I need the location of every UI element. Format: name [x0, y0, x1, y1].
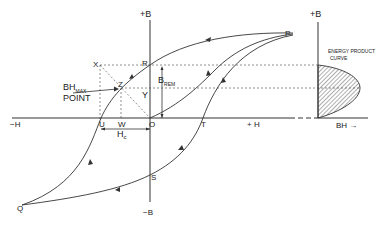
minus-b-label: −B: [143, 208, 153, 217]
b-rem-label: BREM: [158, 75, 175, 87]
point-w-label: W: [118, 120, 126, 129]
point-r-label: R: [142, 59, 148, 68]
point-x-label: X: [93, 60, 99, 69]
energy-plus-b-label: +B: [310, 9, 321, 19]
arrow-icon: [221, 77, 226, 83]
energy-curve-title-line2: CURVE: [330, 55, 348, 61]
point-o-label: O: [149, 120, 155, 129]
arrow-icon: [161, 114, 164, 118]
point-z-label: Z: [118, 80, 123, 89]
point-u-label: U: [99, 120, 105, 129]
arrow-icon: [206, 70, 211, 76]
point-t-label: T: [201, 120, 206, 129]
hysteresis-diagram: +B −B −H + H +B BH → O P Q R S T U W X Y…: [0, 0, 390, 229]
point-s-label: S: [151, 173, 156, 182]
initial-magnetization-curve: [150, 34, 293, 118]
plus-h-label: + H: [247, 120, 260, 129]
point-y-label: Y: [142, 90, 148, 100]
hc-label: Hc: [117, 129, 127, 140]
point-q-label: Q: [17, 204, 23, 213]
bh-max-point-label: POINT: [63, 93, 91, 103]
plus-b-label: +B: [140, 9, 151, 19]
point-p-label: P: [285, 29, 290, 38]
arrow-icon: [161, 66, 164, 70]
arrow-icon: [178, 145, 184, 150]
minus-h-label: −H: [10, 120, 21, 129]
energy-product-curve: [318, 65, 360, 118]
arrow-icon: [129, 74, 134, 79]
energy-curve-title-line1: ENERGY PRODUCT: [328, 48, 375, 54]
bh-axis-label: BH →: [336, 121, 357, 130]
arrow-icon: [88, 159, 93, 165]
descending-branch-curve: [22, 33, 293, 205]
